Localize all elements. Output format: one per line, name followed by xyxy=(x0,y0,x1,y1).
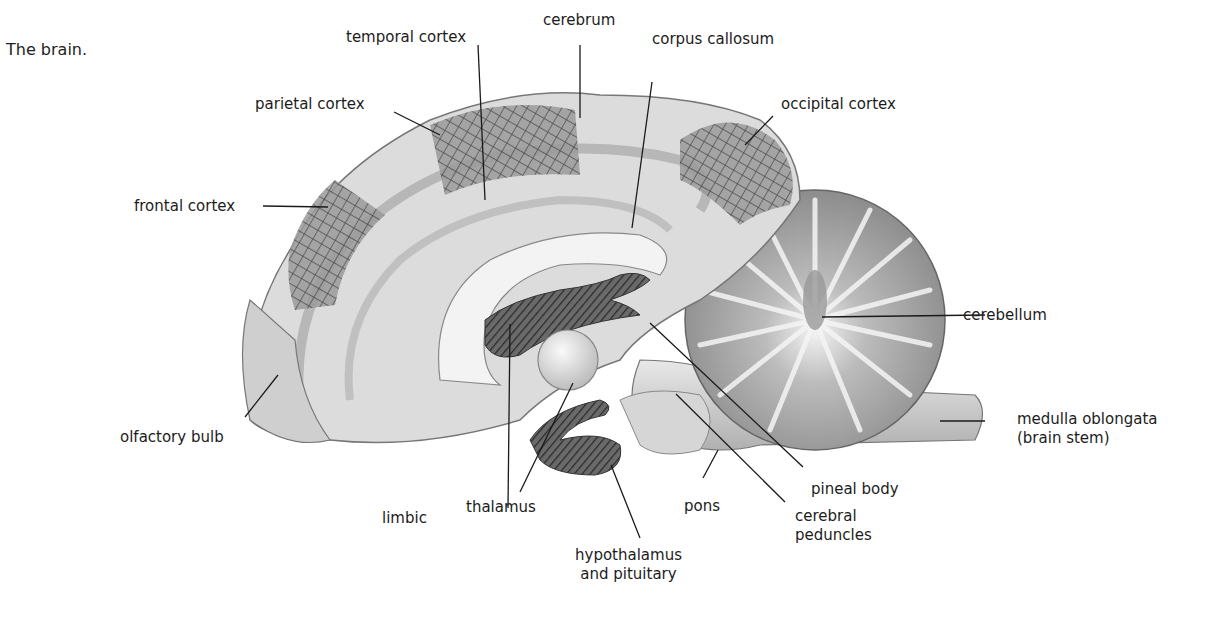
label-olfactory-bulb: olfactory bulb xyxy=(120,428,224,447)
label-peduncles-line1: cerebral xyxy=(795,507,872,526)
label-cerebral-peduncles: cerebral peduncles xyxy=(795,507,872,545)
label-cerebellum: cerebellum xyxy=(963,306,1047,325)
label-thalamus: thalamus xyxy=(466,498,536,517)
label-peduncles-line2: peduncles xyxy=(795,526,872,545)
label-pons: pons xyxy=(684,497,720,516)
label-hypothalamus-line2: and pituitary xyxy=(575,565,682,584)
label-corpus-callosum: corpus callosum xyxy=(652,30,774,49)
label-occipital-cortex: occipital cortex xyxy=(781,95,896,114)
hypothalamus-pituitary-region xyxy=(530,400,621,475)
thalamus-shape xyxy=(538,330,598,390)
label-temporal-cortex: temporal cortex xyxy=(346,28,466,47)
pons-shape xyxy=(620,391,710,454)
label-medulla-line1: medulla oblongata xyxy=(1017,410,1158,429)
label-hypothalamus-line1: hypothalamus xyxy=(575,546,682,565)
label-cerebrum: cerebrum xyxy=(543,11,615,30)
label-limbic: limbic xyxy=(382,509,427,528)
label-frontal-cortex: frontal cortex xyxy=(134,197,235,216)
label-medulla-oblongata: medulla oblongata (brain stem) xyxy=(1017,410,1158,448)
label-pineal-body: pineal body xyxy=(811,480,899,499)
label-parietal-cortex: parietal cortex xyxy=(255,95,365,114)
label-medulla-line2: (brain stem) xyxy=(1017,429,1158,448)
label-hypothalamus-pituitary: hypothalamus and pituitary xyxy=(575,546,682,584)
